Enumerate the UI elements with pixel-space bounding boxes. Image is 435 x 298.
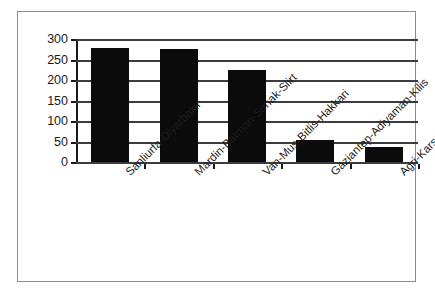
chart-figure: 050100150200250300 Sanliurfa-DiyarbakirM… (0, 0, 435, 298)
y-tick-250 (71, 60, 76, 62)
bar-1 (91, 48, 129, 162)
y-axis-label-250: 250 (47, 53, 68, 66)
chart-frame-border: 050100150200250300 Sanliurfa-DiyarbakirM… (17, 11, 416, 282)
y-tick-150 (71, 101, 76, 103)
x-axis-label-2: Mardin-Batman-Sirnak-Siirt (193, 170, 201, 178)
x-axis-labels-group: Sanliurfa-DiyarbakirMardin-Batman-Sirnak… (76, 164, 418, 274)
x-axis-label-3: Van-Mus-Bitlis-Hakkari (261, 170, 269, 178)
y-axis-label-50: 50 (54, 135, 68, 148)
x-axis-label-1: Sanliurfa-Diyarbakir (124, 170, 132, 178)
y-tick-300 (71, 39, 76, 41)
y-tick-50 (71, 142, 76, 144)
y-axis-label-200: 200 (47, 74, 68, 87)
bar-5 (365, 147, 403, 162)
y-axis-label-100: 100 (47, 115, 68, 128)
y-axis-label-300: 300 (47, 33, 68, 46)
y-tick-200 (71, 80, 76, 82)
y-axis-label-0: 0 (61, 156, 68, 169)
y-tick-100 (71, 121, 76, 123)
gridline-y-300 (76, 39, 418, 41)
y-axis-label-150: 150 (47, 94, 68, 107)
x-axis-label-4: Gaziantep-Adiyaman-Kilis (329, 170, 337, 178)
x-axis-label-5: Agri-Kars-Igdir-Ardahan (398, 170, 406, 178)
